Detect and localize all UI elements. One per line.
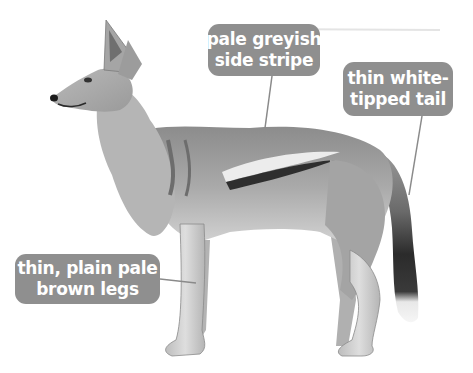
tail-label-line-1: thin white- [347, 68, 448, 89]
tail-label: thin white- tipped tail [343, 62, 453, 116]
side-stripe-label: pale greyish side stripe [208, 24, 320, 76]
side-stripe-label-line-1: pale greyish [207, 29, 322, 50]
eye [84, 78, 92, 83]
legs-label-line-2: brown legs [36, 279, 139, 300]
legs-label: thin, plain pale brown legs [15, 254, 160, 304]
tail-label-line-2: tipped tail [350, 89, 446, 110]
near-front-leg [166, 224, 205, 356]
side-stripe-label-line-2: side stripe [215, 50, 313, 71]
annotated-jackal-diagram: pale greyish side stripe thin white- tip… [0, 0, 473, 373]
tail-leader-line [409, 116, 422, 195]
nose [50, 95, 58, 102]
stripe-leader-line [265, 76, 272, 128]
legs-label-line-1: thin, plain pale [17, 258, 157, 279]
